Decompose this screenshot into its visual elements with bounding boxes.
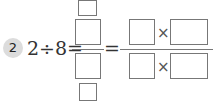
- numerator-box[interactable]: [75, 19, 101, 45]
- problem-number-badge: 2: [3, 38, 23, 58]
- left-fraction-line: [72, 49, 104, 50]
- right-denominator-left-box[interactable]: [129, 53, 155, 79]
- right-numerator-left-box[interactable]: [129, 19, 155, 45]
- denominator-box[interactable]: [75, 53, 101, 79]
- times-sign-bottom: ×: [157, 58, 170, 76]
- right-fraction-line: [120, 49, 213, 50]
- equals-sign: =: [104, 36, 120, 60]
- bottom-multiplier-box[interactable]: [79, 83, 97, 101]
- times-sign-top: ×: [157, 24, 170, 42]
- top-multiplier-box[interactable]: [78, 0, 97, 16]
- right-denominator-right-box[interactable]: [170, 53, 208, 79]
- right-numerator-right-box[interactable]: [170, 19, 208, 45]
